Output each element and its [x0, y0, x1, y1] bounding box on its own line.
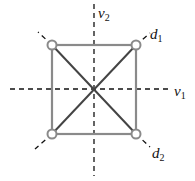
label-d2: d2	[152, 146, 165, 163]
symmetry-diagram: v2 d1 v1 d2	[0, 0, 195, 181]
label-v2: v2	[98, 6, 110, 23]
vertex-top-left	[48, 41, 57, 50]
label-v1: v1	[174, 84, 186, 101]
vertex-bottom-left	[48, 130, 57, 139]
vertex-top-right	[132, 41, 141, 50]
diagram-canvas	[0, 0, 195, 181]
vertex-bottom-right	[132, 130, 141, 139]
label-d1: d1	[150, 27, 163, 44]
